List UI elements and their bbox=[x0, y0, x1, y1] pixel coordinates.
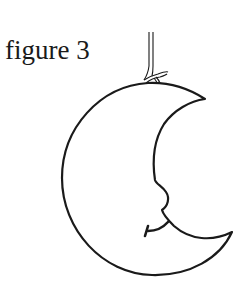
moon-illustration bbox=[0, 0, 251, 291]
string-icon bbox=[144, 32, 153, 80]
crescent-moon-icon bbox=[62, 83, 232, 275]
